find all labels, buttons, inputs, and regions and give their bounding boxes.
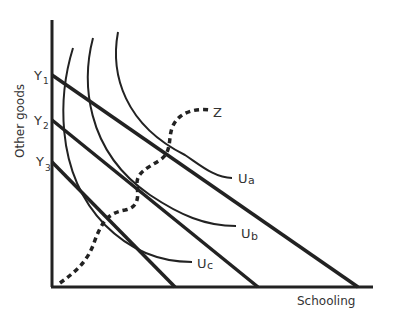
svg-text:a: a xyxy=(248,174,255,187)
svg-text:U: U xyxy=(241,226,251,241)
label-y2: Y 2 xyxy=(33,113,49,131)
svg-text:Y: Y xyxy=(33,68,42,83)
label-y3: Y 3 xyxy=(35,154,51,173)
svg-text:c: c xyxy=(207,259,213,272)
label-z: Z xyxy=(213,105,222,120)
svg-text:Y: Y xyxy=(33,113,42,128)
svg-text:2: 2 xyxy=(43,121,49,131)
label-ub: U b xyxy=(241,226,258,243)
svg-text:b: b xyxy=(251,230,258,243)
svg-text:3: 3 xyxy=(45,163,51,173)
svg-text:1: 1 xyxy=(43,76,49,86)
label-y1: Y 1 xyxy=(33,68,49,86)
label-ua: U a xyxy=(238,171,255,187)
y-axis-label: Other goods xyxy=(13,84,27,158)
indifference-curve-b xyxy=(88,38,236,226)
indifference-curve-c xyxy=(63,48,192,262)
svg-text:U: U xyxy=(238,171,248,186)
svg-text:U: U xyxy=(197,256,207,271)
diagram: Y 1 Y 2 Y 3 U a U b U c Z Schooling Othe… xyxy=(0,0,393,314)
svg-text:Y: Y xyxy=(35,154,44,169)
budget-line-3 xyxy=(52,162,175,287)
label-uc: U c xyxy=(197,256,213,272)
x-axis-label: Schooling xyxy=(297,294,355,308)
